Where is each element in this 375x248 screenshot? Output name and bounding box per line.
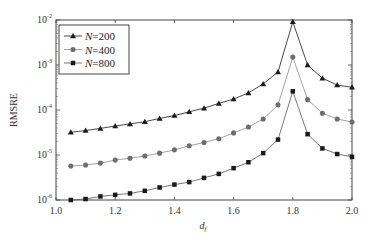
data-point-square-icon [172, 182, 177, 187]
data-point-circle-icon [201, 140, 206, 145]
x-tick-label: 1.8 [287, 205, 300, 216]
data-point-circle-icon [142, 153, 147, 158]
data-point-circle-icon [68, 163, 73, 168]
x-tick-label: 1.0 [50, 205, 63, 216]
data-point-circle-icon [83, 162, 88, 167]
data-point-square-icon [335, 152, 340, 157]
data-point-square-icon [291, 89, 296, 94]
data-point-circle-icon [349, 119, 354, 124]
data-point-square-icon [305, 132, 310, 137]
data-point-square-icon [69, 198, 74, 203]
data-point-circle-icon [172, 147, 177, 152]
data-point-square-icon [98, 194, 103, 199]
x-axis-label-subscript: f [205, 225, 208, 233]
x-tick-label: 1.2 [109, 205, 122, 216]
data-point-circle-icon [246, 124, 251, 129]
data-point-square-icon [320, 146, 325, 151]
legend-square-icon [71, 61, 76, 66]
data-point-triangle-icon [245, 90, 251, 95]
data-point-circle-icon [98, 161, 103, 166]
data-point-circle-icon [113, 158, 118, 163]
data-point-circle-icon [335, 116, 340, 121]
data-point-triangle-icon [305, 62, 311, 67]
legend: N=200N=400N=800 [59, 25, 129, 74]
legend-label: N=400 [84, 44, 116, 56]
data-point-square-icon [350, 155, 355, 160]
x-tick-label: 1.4 [168, 205, 181, 216]
data-point-circle-icon [231, 130, 236, 135]
data-point-square-icon [261, 151, 266, 156]
data-point-circle-icon [187, 143, 192, 148]
data-point-circle-icon [261, 116, 266, 121]
data-point-circle-icon [127, 156, 132, 161]
series-line [71, 91, 352, 200]
rmsre-vs-df-chart: 1.01.21.41.61.82.0 10-610-510-410-310-2 … [0, 0, 375, 248]
data-point-circle-icon [216, 136, 221, 141]
data-point-square-icon [202, 176, 207, 181]
y-tick-label: 10-2 [37, 13, 52, 25]
data-point-triangle-icon [275, 69, 281, 74]
y-tick-label: 10-5 [37, 148, 52, 160]
y-tick-label: 10-4 [37, 103, 52, 115]
data-point-square-icon [83, 197, 88, 202]
y-tick-label: 10-3 [37, 58, 52, 70]
x-axis-label: df [200, 220, 208, 233]
x-tick-label: 1.6 [227, 205, 240, 216]
legend-circle-icon [70, 47, 75, 52]
y-tick-label: 10-6 [37, 193, 52, 205]
data-point-square-icon [231, 166, 236, 171]
data-point-circle-icon [275, 102, 280, 107]
data-point-circle-icon [320, 111, 325, 116]
data-point-square-icon [217, 172, 222, 177]
data-point-circle-icon [290, 55, 295, 60]
data-point-circle-icon [305, 97, 310, 102]
data-point-square-icon [157, 185, 162, 190]
data-point-square-icon [246, 160, 251, 165]
data-point-triangle-icon [231, 96, 237, 101]
data-point-square-icon [128, 191, 133, 196]
data-point-square-icon [143, 189, 148, 194]
data-point-circle-icon [157, 151, 162, 156]
legend-label: N=800 [84, 57, 116, 69]
data-point-triangle-icon [334, 82, 340, 87]
data-point-square-icon [187, 180, 192, 185]
legend-label: N=200 [84, 30, 116, 42]
data-point-square-icon [113, 193, 118, 198]
data-point-triangle-icon [260, 81, 266, 86]
data-point-square-icon [276, 137, 281, 142]
x-tick-label: 2.0 [346, 205, 359, 216]
y-axis-label: RMSRE [8, 93, 19, 127]
